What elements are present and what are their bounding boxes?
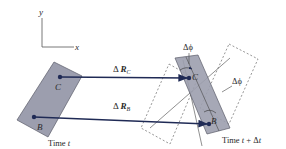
delta-rb-label: Δ RB [113, 101, 131, 112]
point-c-final-label: C [192, 72, 199, 82]
point-c-final [187, 76, 191, 80]
delta-phi-right-leader [222, 86, 232, 92]
point-b-initial [32, 115, 36, 119]
delta-rc-label: Δ RC [113, 64, 132, 75]
coordinate-axes: y x [38, 7, 79, 52]
x-axis-label: x [74, 42, 79, 52]
body-initial [17, 62, 82, 137]
delta-phi-right-label: Δϕ [232, 76, 242, 86]
time-final-label: Time t + Δt [222, 135, 262, 145]
y-axis-label: y [38, 7, 43, 17]
point-b-initial-label: B [37, 122, 43, 132]
time-initial-label: Time t [48, 138, 71, 148]
delta-phi-top-label: Δϕ [183, 42, 193, 52]
point-c-initial-label: C [55, 82, 62, 92]
arrow-delta-rc [60, 77, 187, 78]
point-b-final-label: B [211, 116, 217, 126]
point-c-initial [58, 75, 62, 79]
rigid-body-motion-diagram: y x C B Time t C B Time t + Δt Δ RC Δ RB… [0, 0, 286, 149]
